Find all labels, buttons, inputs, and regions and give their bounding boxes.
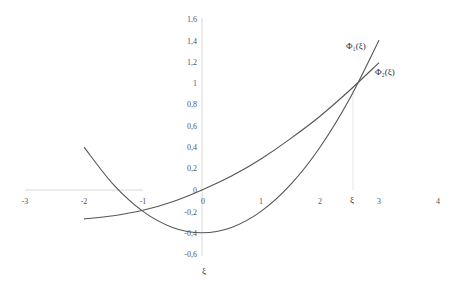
phi1-curve xyxy=(84,40,379,233)
y-tick: 1,2 xyxy=(187,58,197,67)
phi2-label: Φ₂(ξ) xyxy=(375,67,395,77)
y-tick: -0,4 xyxy=(184,229,197,238)
xi-marker-label: ξ xyxy=(350,195,354,205)
y-tick: 1,6 xyxy=(187,15,197,24)
x-tick: 0 xyxy=(201,197,205,206)
chart: 1,6 1,4 1,2 1 0,8 0,6 0,4 0,2 0 -0,2 -0,… xyxy=(0,0,466,289)
y-tick: 1,4 xyxy=(187,37,197,46)
x-tick: -1 xyxy=(140,197,147,206)
x-tick: -3 xyxy=(22,197,29,206)
x-tick: 3 xyxy=(377,197,381,206)
y-tick: -0,6 xyxy=(184,250,197,259)
y-tick: 0,2 xyxy=(187,164,197,173)
y-tick: 0,6 xyxy=(187,122,197,131)
x-tick: 2 xyxy=(318,197,322,206)
y-tick: 1 xyxy=(193,79,197,88)
y-tick-labels: 1,6 1,4 1,2 1 0,8 0,6 0,4 0,2 0 -0,2 -0,… xyxy=(184,15,197,259)
phi2-curve xyxy=(84,63,379,219)
x-axis-title: ξ xyxy=(202,266,206,276)
x-tick: 4 xyxy=(436,197,440,206)
y-tick: 0,4 xyxy=(187,143,197,152)
y-tick: -0,2 xyxy=(184,208,197,217)
y-tick: 0,8 xyxy=(187,100,197,109)
phi1-label: Φ₁(ξ) xyxy=(346,41,366,51)
x-tick-labels: -3 -2 -1 0 1 2 3 4 xyxy=(22,197,440,206)
x-tick: -2 xyxy=(81,197,88,206)
x-tick: 1 xyxy=(259,197,263,206)
